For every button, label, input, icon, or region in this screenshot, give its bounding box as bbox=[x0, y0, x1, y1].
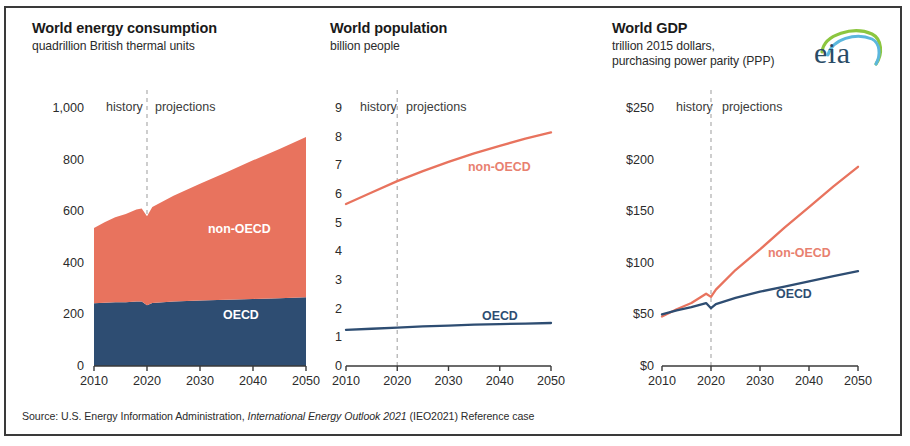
x-axis-tick-label: 2020 bbox=[383, 374, 411, 388]
y-axis-tick-label: $100 bbox=[602, 256, 654, 270]
x-axis-tick-label: 2040 bbox=[239, 374, 267, 388]
x-axis-tick-label: 2010 bbox=[332, 374, 360, 388]
y-axis-tick-label: 1,000 bbox=[22, 101, 84, 115]
line-series-oecd bbox=[346, 323, 551, 330]
chart-plot-population bbox=[346, 108, 551, 366]
chart-canvas bbox=[662, 108, 858, 368]
x-axis-tick-label: 2010 bbox=[648, 374, 676, 388]
y-axis-tick-label: 8 bbox=[320, 130, 342, 144]
y-axis-tick-label: 9 bbox=[320, 101, 342, 115]
series-label-oecd-energy: OECD bbox=[223, 308, 259, 322]
x-axis-tick-label: 2020 bbox=[133, 374, 161, 388]
chart-subtitle2-gdp: purchasing power parity (PPP) bbox=[612, 54, 774, 68]
eia-figure-card: eia World energy consumption quadrillion… bbox=[4, 6, 902, 436]
chart-canvas bbox=[94, 108, 306, 368]
x-axis-tick-label: 2010 bbox=[80, 374, 108, 388]
chart-panel-gdp: World GDP trillion 2015 dollars, purchas… bbox=[598, 8, 898, 388]
chart-panel-energy-consumption: World energy consumption quadrillion Bri… bbox=[18, 8, 318, 388]
series-label-non-oecd-population: non-OECD bbox=[468, 160, 531, 174]
y-axis-tick-label: 5 bbox=[320, 216, 342, 230]
chart-plot-gdp bbox=[662, 108, 858, 366]
y-axis-tick-label: 0 bbox=[320, 359, 342, 373]
y-axis-tick-label: 600 bbox=[22, 204, 84, 218]
x-axis-tick-label: 2050 bbox=[537, 374, 565, 388]
y-axis-tick-label: $150 bbox=[602, 204, 654, 218]
source-publication-title: International Energy Outlook 2021 bbox=[247, 410, 406, 422]
series-label-non-oecd-energy: non-OECD bbox=[208, 222, 271, 236]
charts-row: World energy consumption quadrillion Bri… bbox=[6, 8, 904, 388]
x-axis-tick-label: 2030 bbox=[186, 374, 214, 388]
series-label-non-oecd-gdp: non-OECD bbox=[768, 246, 831, 260]
x-axis-tick-label: 2040 bbox=[795, 374, 823, 388]
area-series-oecd bbox=[94, 297, 306, 366]
y-axis-tick-label: $50 bbox=[602, 307, 654, 321]
y-axis-tick-label: 400 bbox=[22, 256, 84, 270]
chart-title-population: World population bbox=[330, 20, 447, 36]
y-axis-tick-label: 6 bbox=[320, 187, 342, 201]
y-axis-tick-label: 2 bbox=[320, 302, 342, 316]
y-axis-tick-label: 800 bbox=[22, 153, 84, 167]
series-label-oecd-gdp: OECD bbox=[776, 287, 812, 301]
y-axis-tick-label: 200 bbox=[22, 307, 84, 321]
area-series-non-oecd bbox=[94, 137, 306, 305]
series-label-oecd-population: OECD bbox=[482, 309, 518, 323]
x-axis-tick-label: 2030 bbox=[434, 374, 462, 388]
x-axis-tick-label: 2050 bbox=[844, 374, 872, 388]
y-axis-tick-label: 7 bbox=[320, 158, 342, 172]
chart-subtitle-energy: quadrillion British thermal units bbox=[32, 39, 195, 53]
y-axis-tick-label: $200 bbox=[602, 153, 654, 167]
chart-subtitle-gdp: trillion 2015 dollars, bbox=[612, 39, 715, 53]
chart-panel-population: World population billion people history … bbox=[316, 8, 604, 388]
chart-subtitle-population: billion people bbox=[330, 39, 400, 53]
chart-plot-energy bbox=[94, 108, 306, 366]
chart-title-energy: World energy consumption bbox=[32, 20, 217, 36]
y-axis-tick-label: 4 bbox=[320, 244, 342, 258]
source-suffix: (IEO2021) Reference case bbox=[407, 410, 535, 422]
x-axis-tick-label: 2020 bbox=[697, 374, 725, 388]
source-prefix: Source: U.S. Energy Information Administ… bbox=[22, 410, 247, 422]
y-axis-tick-label: 0 bbox=[22, 359, 84, 373]
x-axis-tick-label: 2030 bbox=[746, 374, 774, 388]
chart-canvas bbox=[346, 108, 551, 368]
chart-title-gdp: World GDP bbox=[612, 20, 687, 36]
line-series-non-oecd bbox=[662, 167, 858, 317]
line-series-oecd bbox=[662, 271, 858, 314]
y-axis-tick-label: 3 bbox=[320, 273, 342, 287]
y-axis-tick-label: $0 bbox=[602, 359, 654, 373]
x-axis-tick-label: 2040 bbox=[486, 374, 514, 388]
source-note: Source: U.S. Energy Information Administ… bbox=[22, 410, 534, 422]
y-axis-tick-label: 1 bbox=[320, 330, 342, 344]
y-axis-tick-label: $250 bbox=[602, 101, 654, 115]
